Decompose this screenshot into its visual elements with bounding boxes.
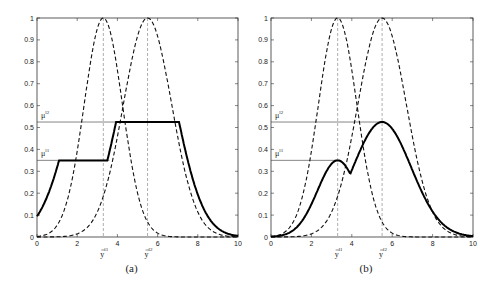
y-tick-label: 0.2 xyxy=(24,190,34,197)
x-tick-label: 10 xyxy=(234,240,242,247)
mu-label: μl1 xyxy=(275,148,284,158)
mu-label: μl2 xyxy=(275,110,284,120)
x-tick-label: 8 xyxy=(196,240,200,247)
x-tick-label: 6 xyxy=(390,240,394,247)
subfigure-caption: (a) xyxy=(125,262,138,275)
y-tick-label: 0.8 xyxy=(24,58,34,65)
x-tick-label: 0 xyxy=(35,240,39,247)
mu-label: μl2 xyxy=(41,110,50,120)
y-tick-label: 0.1 xyxy=(258,212,268,219)
solid-output-curve xyxy=(37,122,238,236)
y-tick-label: 0.4 xyxy=(258,146,268,153)
y-tick-label: 0.2 xyxy=(258,190,268,197)
ybar-label: yl1 xyxy=(335,247,343,259)
chart-figure: 00.10.20.30.40.50.60.70.80.910246810μl2μ… xyxy=(0,0,500,292)
x-tick-label: 8 xyxy=(431,240,435,247)
y-tick-label: 0.5 xyxy=(24,124,34,131)
y-tick-label: 1 xyxy=(30,15,34,22)
y-tick-label: 0.7 xyxy=(258,80,268,87)
y-tick-label: 0.6 xyxy=(258,102,268,109)
dashed-mf-curve xyxy=(37,18,238,237)
y-tick-label: 0.9 xyxy=(24,36,34,43)
mu-label: μl1 xyxy=(41,148,50,158)
ybar-label: yl1 xyxy=(100,247,108,259)
y-tick-label: 0 xyxy=(264,234,268,241)
y-tick-label: 0.4 xyxy=(24,146,34,153)
ybar-label: yl2 xyxy=(145,247,153,259)
plot-b: 00.10.20.30.40.50.60.70.80.910246810μl2μ… xyxy=(258,15,477,276)
plot-a: 00.10.20.30.40.50.60.70.80.910246810μl2μ… xyxy=(24,15,242,276)
x-tick-label: 4 xyxy=(350,240,354,247)
x-tick-label: 6 xyxy=(156,240,160,247)
plot-frame xyxy=(37,18,238,237)
y-tick-label: 0.1 xyxy=(24,212,34,219)
x-tick-label: 4 xyxy=(115,240,119,247)
y-tick-label: 0.8 xyxy=(258,58,268,65)
x-tick-label: 2 xyxy=(75,240,79,247)
y-tick-label: 1 xyxy=(264,15,268,22)
solid-output-curve xyxy=(271,122,473,237)
y-tick-label: 0.9 xyxy=(258,36,268,43)
y-tick-label: 0.3 xyxy=(24,168,34,175)
x-tick-label: 0 xyxy=(269,240,273,247)
subfigure-caption: (b) xyxy=(360,262,373,275)
x-tick-label: 10 xyxy=(469,240,477,247)
y-tick-label: 0.7 xyxy=(24,80,34,87)
x-tick-label: 2 xyxy=(309,240,313,247)
y-tick-label: 0.6 xyxy=(24,102,34,109)
ybar-label: yl2 xyxy=(379,247,387,259)
dashed-mf-curve xyxy=(37,18,238,237)
y-tick-label: 0.3 xyxy=(258,168,268,175)
y-tick-label: 0.5 xyxy=(258,124,268,131)
y-tick-label: 0 xyxy=(30,234,34,241)
